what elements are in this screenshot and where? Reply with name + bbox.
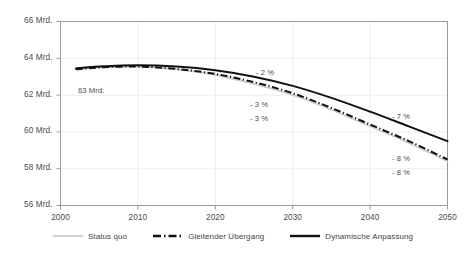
chart-legend: Status quoGleitender ÜbergangDynamische … bbox=[0, 231, 466, 241]
x-axis-tick-label: 2000 bbox=[41, 213, 81, 222]
y-axis-tick-label: 62 Mrd. bbox=[11, 90, 53, 99]
x-axis-tick-label: 2030 bbox=[273, 213, 313, 222]
legend-swatch-icon bbox=[153, 231, 183, 241]
legend-label: Status quo bbox=[88, 232, 127, 241]
x-axis-tick-label: 2010 bbox=[118, 213, 158, 222]
x-axis-tick-label: 2050 bbox=[428, 213, 466, 222]
chart-annotation: - 2 % bbox=[256, 68, 274, 77]
legend-item[interactable]: Status quo bbox=[53, 231, 127, 241]
chart-container: 56 Mrd.58 Mrd.60 Mrd.62 Mrd.64 Mrd.66 Mr… bbox=[0, 0, 466, 259]
x-axis-tick-label: 2040 bbox=[350, 213, 390, 222]
y-axis-tick-label: 64 Mrd. bbox=[11, 53, 53, 62]
chart-annotation: - 8 % bbox=[392, 168, 410, 177]
y-axis-tick-label: 60 Mrd. bbox=[11, 126, 53, 135]
legend-item[interactable]: Dynamische Anpassung bbox=[290, 231, 413, 241]
x-axis-tick-label: 2020 bbox=[195, 213, 235, 222]
legend-label: Gleitender Übergang bbox=[188, 232, 264, 241]
legend-label: Dynamische Anpassung bbox=[325, 232, 413, 241]
legend-swatch-icon bbox=[290, 231, 320, 241]
chart-annotation: - 7 % bbox=[392, 112, 410, 121]
chart-annotation: 63 Mrd. bbox=[78, 86, 104, 95]
chart-annotation: - 8 % bbox=[392, 154, 410, 163]
chart-annotation: - 3 % bbox=[250, 114, 268, 123]
legend-swatch-icon bbox=[53, 231, 83, 241]
chart-annotation: - 3 % bbox=[250, 100, 268, 109]
y-axis-tick-label: 56 Mrd. bbox=[11, 200, 53, 209]
y-axis-tick-label: 66 Mrd. bbox=[11, 16, 53, 25]
legend-item[interactable]: Gleitender Übergang bbox=[153, 231, 264, 241]
y-axis-tick-label: 58 Mrd. bbox=[11, 163, 53, 172]
